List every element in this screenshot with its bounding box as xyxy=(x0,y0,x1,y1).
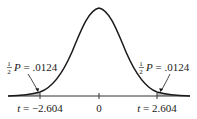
left-annotation: 1 2 P = .0124 xyxy=(7,60,58,76)
left-arrowhead-icon xyxy=(35,88,39,92)
svg-text:P = .0124: P = .0124 xyxy=(13,61,58,73)
svg-text:1: 1 xyxy=(139,60,143,68)
svg-text:2: 2 xyxy=(7,68,11,76)
t-distribution-chart: 1 2 P = .0124 1 2 P = .0124 t = −2.604 0… xyxy=(0,0,197,119)
right-arrow xyxy=(161,74,170,91)
density-curve xyxy=(8,8,190,96)
right-annotation: 1 2 P = .0124 xyxy=(139,60,190,76)
tick-label-center: 0 xyxy=(96,102,102,114)
tick-label-right: t = 2.604 xyxy=(137,102,177,114)
svg-text:P = .0124: P = .0124 xyxy=(145,61,190,73)
right-arrowhead-icon xyxy=(159,88,163,92)
tick-label-left: t = −2.604 xyxy=(17,102,63,114)
left-arrow xyxy=(28,74,38,91)
svg-text:1: 1 xyxy=(7,60,11,68)
svg-text:2: 2 xyxy=(139,68,143,76)
